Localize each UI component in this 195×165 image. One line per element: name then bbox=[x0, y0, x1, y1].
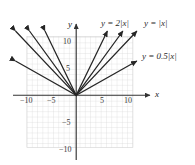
x-tick-label-neg10: −10 bbox=[20, 97, 33, 105]
x-tick-label-pos5: 5 bbox=[100, 97, 104, 105]
x-axis-label: x bbox=[155, 90, 159, 99]
absolute-value-graph-figure: y x y = 2|x| y = |x| y = 0.5|x| −10 −5 5… bbox=[0, 0, 195, 165]
y-tick-label-pos5: 5 bbox=[66, 65, 70, 73]
equation-label-y-half-absx: y = 0.5|x| bbox=[142, 52, 177, 61]
y-tick-label-pos10: 10 bbox=[63, 38, 71, 46]
equation-label-y-2absx: y = 2|x| bbox=[101, 19, 129, 28]
y-axis-label: y bbox=[68, 20, 72, 29]
y-tick-label-neg10: −10 bbox=[59, 146, 72, 154]
equation-label-y-absx: y = |x| bbox=[144, 19, 168, 28]
x-tick-label-neg5: −5 bbox=[47, 97, 56, 105]
y-tick-label-neg5: −5 bbox=[62, 119, 71, 127]
x-tick-label-pos10: 10 bbox=[124, 97, 132, 105]
